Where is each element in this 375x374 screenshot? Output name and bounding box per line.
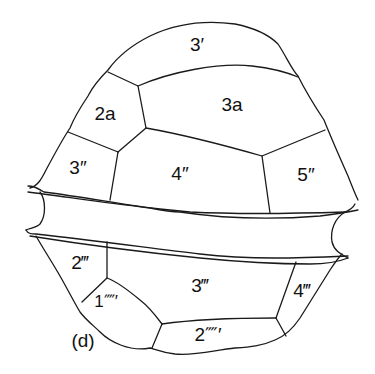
cingulum-left-notch — [26, 192, 45, 230]
plate-boundary — [110, 152, 118, 200]
plate-label-3-double-prime: 3″ — [69, 158, 86, 177]
plate-label-2-triple-prime: 2‴ — [71, 253, 88, 272]
plate-label-3-prime: 3′ — [190, 35, 204, 54]
plate-boundary — [152, 324, 162, 348]
cingulum-upper-edge — [28, 186, 355, 214]
plate-boundary — [108, 65, 298, 86]
cingulum-upper-edge-inner — [28, 192, 358, 218]
plate-label-3-triple-prime: 3‴ — [191, 276, 208, 295]
plate-boundary — [146, 128, 325, 156]
plate-label-3a: 3a — [221, 95, 242, 114]
plate-label-2a: 2a — [94, 104, 115, 123]
plate-boundary — [262, 156, 270, 213]
panel-label: (d) — [71, 331, 94, 350]
cingulum-right-notch — [332, 212, 348, 258]
plate-boundary — [118, 86, 146, 152]
plate-boundary — [276, 318, 286, 336]
plate-boundary — [68, 132, 118, 152]
theca-outline-drawing — [0, 0, 375, 374]
plate-label-4-double-prime: 4″ — [171, 164, 188, 183]
plate-label-2-quad-prime: 2⁗′ — [194, 325, 221, 344]
theca-diagram: 3′ 2a 3a 3″ 4″ 5″ 2‴ 3‴ 4‴ 1⁗′ 2⁗′ (d) — [0, 0, 375, 374]
plate-label-5-double-prime: 5″ — [297, 165, 314, 184]
plate-label-4-triple-prime: 4‴ — [293, 281, 310, 300]
plate-label-1-quad-prime: 1⁗′ — [94, 293, 118, 310]
